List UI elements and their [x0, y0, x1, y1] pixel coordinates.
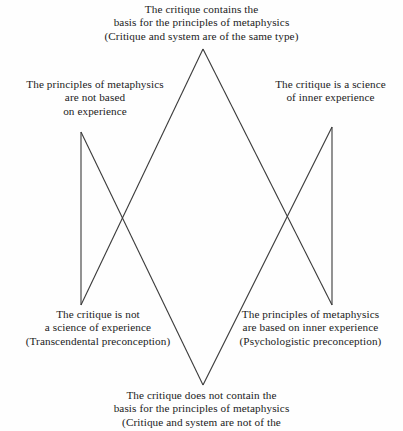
top-proposition-line-1: The critique contains the [0, 3, 403, 16]
lower-right-proposition-line-1: The principles of metaphysics [218, 308, 403, 321]
diagram-edges-layer [0, 0, 403, 431]
top-proposition: The critique contains the basis for the … [0, 3, 403, 43]
opposition-diagram: The critique contains the basis for the … [0, 0, 403, 431]
upper-left-proposition-line-1: The principles of metaphysics [0, 78, 190, 91]
bottom-proposition-line-2: basis for the principles of metaphysics [0, 402, 403, 415]
upper-right-proposition-line-1: The critique is a science [258, 78, 403, 91]
top-proposition-line-3: (Critique and system are of the same typ… [0, 30, 403, 43]
bottom-proposition-line-3: (Critique and system are not of the [0, 416, 403, 429]
upper-right-proposition-line-2: of inner experience [258, 91, 403, 104]
upper-left-proposition: The principles of metaphysics are not ba… [0, 78, 190, 118]
lower-right-proposition-line-2: are based on inner experience [218, 321, 403, 334]
lower-right-proposition-line-3: (Psychologistic preconception) [218, 335, 403, 348]
lower-left-proposition-line-1: The critique is not [0, 308, 196, 321]
lower-left-proposition-line-2: a science of experience [0, 321, 196, 334]
bottom-proposition: The critique does not contain the basis … [0, 389, 403, 429]
top-proposition-line-2: basis for the principles of metaphysics [0, 16, 403, 29]
upper-left-proposition-line-2: are not based [0, 91, 190, 104]
lower-left-proposition: The critique is not a science of experie… [0, 308, 196, 348]
upper-left-proposition-line-3: on experience [0, 105, 190, 118]
upper-right-proposition: The critique is a science of inner exper… [258, 78, 403, 105]
lower-right-proposition: The principles of metaphysics are based … [218, 308, 403, 348]
bottom-proposition-line-1: The critique does not contain the [0, 389, 403, 402]
lower-left-proposition-line-3: (Transcendental preconception) [0, 335, 196, 348]
